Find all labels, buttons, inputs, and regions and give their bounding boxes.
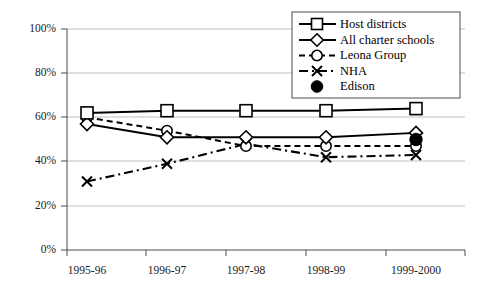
legend-label-nha: NHA bbox=[340, 65, 367, 78]
legend-label-leona-group: Leona Group bbox=[340, 49, 406, 62]
y-tick-label-100: 100% bbox=[18, 23, 56, 35]
legend-label-all-charter-schools: All charter schools bbox=[340, 34, 434, 47]
series-host-districts bbox=[81, 103, 422, 119]
legend-label-host-districts: Host districts bbox=[340, 18, 406, 31]
y-tick-label-80: 80% bbox=[18, 67, 56, 79]
x-tick-label-1998-99: 1998-99 bbox=[286, 265, 366, 277]
x-tick-label-1996-97: 1996-97 bbox=[127, 265, 207, 277]
series-edison-marker bbox=[410, 133, 422, 145]
y-tick-label-0: 0% bbox=[18, 244, 56, 256]
x-tick-marks bbox=[67, 250, 465, 256]
x-tick-label-1997-98: 1997-98 bbox=[206, 265, 286, 277]
y-tick-marks bbox=[61, 29, 67, 250]
x-tick-label-1995-96: 1995-96 bbox=[47, 265, 127, 277]
legend-label-edison: Edison bbox=[340, 80, 375, 93]
series-all-charter-schools bbox=[81, 118, 423, 144]
chart-figure: 100% 80% 60% 40% 20% 0% 1995-96 1996-97 … bbox=[0, 0, 489, 294]
y-tick-label-20: 20% bbox=[18, 200, 56, 212]
y-tick-label-60: 60% bbox=[18, 111, 56, 123]
series-edison bbox=[410, 133, 422, 145]
series-nha-line bbox=[87, 144, 416, 182]
y-tick-label-40: 40% bbox=[18, 155, 56, 167]
legend-key-edison bbox=[311, 81, 323, 93]
x-tick-label-1999-2000: 1999-2000 bbox=[374, 265, 458, 277]
